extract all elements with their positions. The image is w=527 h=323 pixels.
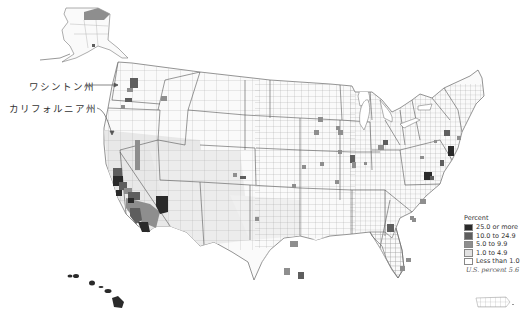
legend-swatch: [464, 241, 473, 249]
legend-swatch: [464, 232, 473, 240]
legend-item: Less than 1.0: [464, 257, 520, 266]
legend-label: 1.0 to 4.9: [476, 249, 507, 257]
legend-label: 10.0 to 24.9: [476, 232, 516, 240]
california-label: カリフォルニア州: [9, 101, 97, 115]
legend-swatch: [464, 224, 473, 232]
legend-swatch: [464, 249, 473, 257]
legend-item: 5.0 to 9.9: [464, 240, 520, 249]
washington-label: ワシントン州: [29, 79, 95, 93]
legend-swatch: [464, 258, 473, 266]
legend-label: Less than 1.0: [476, 257, 520, 265]
puerto-rico-inset: [476, 297, 514, 307]
contiguous-us: [100, 60, 490, 323]
county-choropleth-map: [0, 0, 527, 323]
legend-item: 25.0 or more: [464, 223, 520, 232]
legend-item: 10.0 to 24.9: [464, 232, 520, 241]
us-percent-note: U.S. percent 5.6: [466, 266, 519, 274]
legend: Percent 25.0 or more 10.0 to 24.9 5.0 to…: [464, 214, 520, 266]
alaska-inset: [40, 8, 128, 62]
hawaii-inset: [68, 274, 125, 308]
legend-title: Percent: [464, 214, 520, 222]
legend-item: 1.0 to 4.9: [464, 249, 520, 258]
legend-label: 5.0 to 9.9: [476, 240, 507, 248]
legend-label: 25.0 or more: [476, 223, 518, 231]
